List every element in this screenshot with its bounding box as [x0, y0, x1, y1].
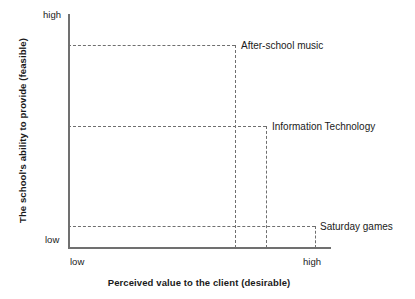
y-axis-tick-high: high	[43, 9, 61, 20]
data-label-after-school-music: After-school music	[241, 40, 323, 51]
priority-matrix-chart: The school's ability to provide (feasibl…	[0, 0, 415, 299]
x-axis-tick-low: low	[70, 256, 84, 267]
x-axis-tick-high: high	[303, 256, 321, 267]
y-axis-line	[68, 14, 70, 248]
guideline-vertical-information-technology	[266, 126, 267, 248]
guideline-horizontal-saturday-games	[68, 226, 315, 227]
y-axis-title: The school's ability to provide (feasibl…	[17, 31, 28, 231]
x-axis-title: Perceived value to the client (desirable…	[68, 277, 330, 288]
data-label-information-technology: Information Technology	[272, 121, 375, 132]
x-axis-line	[68, 247, 331, 249]
guideline-vertical-saturday-games	[315, 226, 316, 248]
data-label-saturday-games: Saturday games	[320, 221, 393, 232]
guideline-horizontal-after-school-music	[68, 45, 235, 46]
guideline-horizontal-information-technology	[68, 126, 266, 127]
y-axis-tick-low: low	[45, 234, 59, 245]
guideline-vertical-after-school-music	[235, 45, 236, 248]
